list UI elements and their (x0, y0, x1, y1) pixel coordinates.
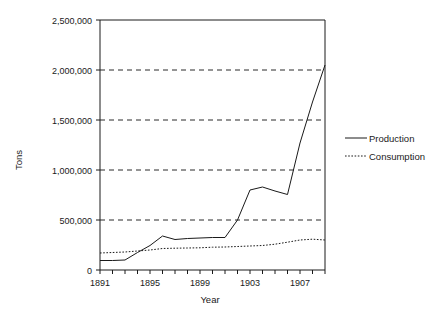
x-tick-label: 1903 (240, 278, 260, 288)
x-tick-label: 1899 (190, 278, 210, 288)
y-tick-label: 1,000,000 (52, 166, 92, 176)
x-axis-tick-labels: 18911895189919031907 (90, 278, 310, 288)
y-tick-label: 2,500,000 (52, 16, 92, 26)
y-tick-label: 500,000 (59, 216, 92, 226)
y-tick-label: 2,000,000 (52, 66, 92, 76)
data-series-group (100, 65, 325, 261)
y-tick-label: 0 (87, 266, 92, 276)
legend-label-production: Production (369, 133, 414, 144)
y-axis-tick-labels: 0500,0001,000,0001,500,0002,000,0002,500… (52, 16, 92, 276)
x-tick-label: 1895 (140, 278, 160, 288)
line-chart: 0500,0001,000,0001,500,0002,000,0002,500… (0, 0, 442, 318)
y-axis-title: Tons (13, 150, 24, 170)
plot-frame (100, 20, 325, 270)
series-line-production (100, 65, 325, 261)
x-tick-label: 1907 (290, 278, 310, 288)
chart-container: 0500,0001,000,0001,500,0002,000,0002,500… (0, 0, 442, 318)
x-tick-label: 1891 (90, 278, 110, 288)
x-axis-ticks (100, 270, 325, 274)
y-tick-label: 1,500,000 (52, 116, 92, 126)
series-line-consumption (100, 239, 325, 253)
chart-legend: ProductionConsumption (345, 133, 425, 162)
gridlines-group (100, 70, 325, 220)
y-axis-ticks (96, 20, 100, 270)
x-axis-title: Year (200, 294, 219, 305)
legend-label-consumption: Consumption (369, 151, 425, 162)
